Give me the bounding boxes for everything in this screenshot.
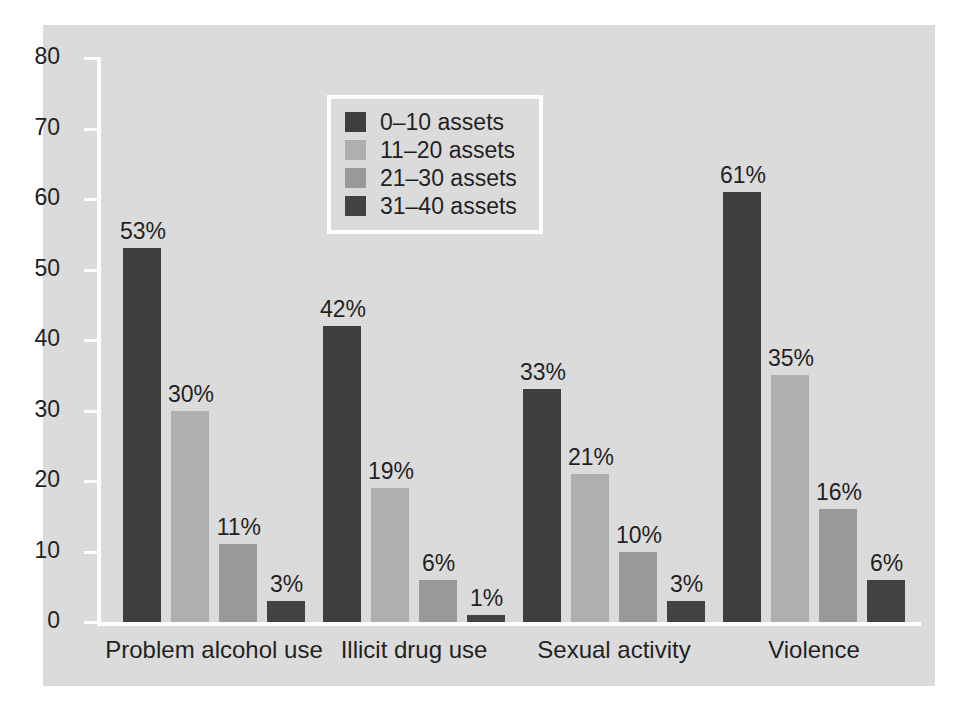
bar-value-label: 53% xyxy=(120,218,166,245)
bar-value-label: 3% xyxy=(670,571,703,598)
bar-value-label: 21% xyxy=(568,444,614,471)
y-axis-tick: 0 xyxy=(84,621,98,624)
legend-swatch-icon xyxy=(345,168,366,188)
bar: 21% xyxy=(571,474,609,622)
bar-value-label: 61% xyxy=(720,162,766,189)
y-axis-tick: 70 xyxy=(84,128,98,131)
bar: 1% xyxy=(467,615,505,622)
bar-value-label: 19% xyxy=(368,458,414,485)
y-axis-tick: 20 xyxy=(84,480,98,483)
bar-value-label: 42% xyxy=(320,296,366,323)
legend-item: 31–40 assets xyxy=(345,192,517,220)
bar-value-label: 6% xyxy=(870,550,903,577)
legend-swatch-icon xyxy=(345,196,366,216)
bar-value-label: 11% xyxy=(217,514,261,541)
legend-item-label: 0–10 assets xyxy=(380,109,504,136)
y-axis-tick-label: 50 xyxy=(34,254,60,281)
y-axis-tick-label: 30 xyxy=(34,395,60,422)
y-axis-tick: 50 xyxy=(84,269,98,272)
y-axis-tick: 80 xyxy=(84,57,98,60)
legend-item: 21–30 assets xyxy=(345,164,517,192)
legend-swatch-icon xyxy=(345,112,366,132)
chart-figure-panel: 80706050403020100 53%30%11%3%Problem alc… xyxy=(43,25,935,686)
bar-group: 53%30%11%3%Problem alcohol use xyxy=(123,58,305,622)
legend-swatch-icon xyxy=(345,140,366,160)
bar: 3% xyxy=(667,601,705,622)
y-axis-tick-label: 80 xyxy=(34,43,60,70)
bar-value-label: 10% xyxy=(616,522,662,549)
legend-item: 11–20 assets xyxy=(345,136,517,164)
x-axis-category-label: Violence xyxy=(768,636,860,664)
bar-group: 61%35%16%6%Violence xyxy=(723,58,905,622)
x-axis-category-label: Problem alcohol use xyxy=(105,636,322,664)
bar-value-label: 35% xyxy=(768,345,814,372)
chart-legend: 0–10 assets11–20 assets21–30 assets31–40… xyxy=(327,95,543,234)
y-axis-tick: 30 xyxy=(84,410,98,413)
bar: 3% xyxy=(267,601,305,622)
x-axis-category-label: Illicit drug use xyxy=(341,636,488,664)
bar: 61% xyxy=(723,192,761,622)
bar: 6% xyxy=(867,580,905,622)
legend-item-label: 31–40 assets xyxy=(380,193,517,220)
bar-group: 33%21%10%3%Sexual activity xyxy=(523,58,705,622)
y-axis-tick-label: 0 xyxy=(47,607,60,634)
y-axis-tick-label: 60 xyxy=(34,184,60,211)
bar-value-label: 1% xyxy=(470,585,503,612)
bar-value-label: 6% xyxy=(422,550,455,577)
bar-value-label: 33% xyxy=(520,359,566,386)
x-axis-category-label: Sexual activity xyxy=(537,636,690,664)
legend-item: 0–10 assets xyxy=(345,108,517,136)
bar: 35% xyxy=(771,375,809,622)
bar: 16% xyxy=(819,509,857,622)
y-axis-tick-label: 70 xyxy=(34,113,60,140)
y-axis-tick: 60 xyxy=(84,198,98,201)
y-axis-tick-label: 10 xyxy=(34,536,60,563)
y-axis-tick-label: 20 xyxy=(34,466,60,493)
y-axis-tick: 40 xyxy=(84,339,98,342)
bar: 53% xyxy=(123,248,161,622)
x-axis-line xyxy=(97,622,921,626)
y-axis-tick: 10 xyxy=(84,551,98,554)
legend-item-label: 21–30 assets xyxy=(380,165,517,192)
bar: 33% xyxy=(523,389,561,622)
y-axis-tick-label: 40 xyxy=(34,325,60,352)
bar: 30% xyxy=(171,411,209,623)
bar: 10% xyxy=(619,552,657,623)
bar: 11% xyxy=(219,544,257,622)
bar-value-label: 3% xyxy=(270,571,303,598)
bar-value-label: 30% xyxy=(168,381,214,408)
bar-value-label: 16% xyxy=(816,479,862,506)
bar: 19% xyxy=(371,488,409,622)
bar: 6% xyxy=(419,580,457,622)
bar: 42% xyxy=(323,326,361,622)
legend-item-label: 11–20 assets xyxy=(380,137,515,164)
